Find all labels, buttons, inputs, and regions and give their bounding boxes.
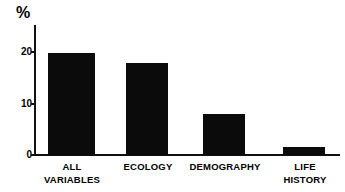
- y-axis-unit-label: %: [16, 4, 30, 22]
- y-axis-tick-label: 20: [6, 47, 32, 57]
- y-axis-tick-mark: [31, 103, 35, 105]
- x-axis-label-life-history: LIFEHISTORY: [274, 160, 336, 186]
- x-axis-label-line2: HISTORY: [274, 173, 336, 186]
- x-axis-label-ecology: ECOLOGY: [112, 160, 184, 173]
- chart-screenshot: % 01020 ALLVARIABLESECOLOGYDEMOGRAPHYLIF…: [0, 0, 345, 192]
- y-axis-tick-label: 0: [6, 150, 32, 160]
- y-axis-line: [34, 25, 36, 156]
- y-axis-tick-label: 10: [6, 99, 32, 109]
- bar-ecology: [126, 63, 168, 155]
- bar-demography: [203, 114, 245, 155]
- x-axis-label-line1: LIFE: [294, 161, 315, 172]
- x-axis-label-line2: VARIABLES: [35, 173, 109, 186]
- bar-chart: % 01020 ALLVARIABLESECOLOGYDEMOGRAPHYLIF…: [0, 0, 345, 192]
- x-axis-label-line1: DEMOGRAPHY: [189, 161, 260, 172]
- x-axis-label-line1: ECOLOGY: [124, 161, 173, 172]
- bar-life-history: [283, 147, 325, 155]
- y-axis-tick-mark: [31, 51, 35, 53]
- x-axis-label-demography: DEMOGRAPHY: [186, 160, 264, 173]
- y-axis-tick-10: 10: [0, 99, 32, 109]
- y-axis-tick-20: 20: [0, 47, 32, 57]
- y-axis-tick-0: 0: [0, 150, 32, 160]
- x-axis-label-line1: ALL: [62, 161, 81, 172]
- bar-all-variables: [48, 53, 95, 155]
- y-axis-tick-mark: [31, 154, 35, 156]
- x-axis-label-all-variables: ALLVARIABLES: [35, 160, 109, 186]
